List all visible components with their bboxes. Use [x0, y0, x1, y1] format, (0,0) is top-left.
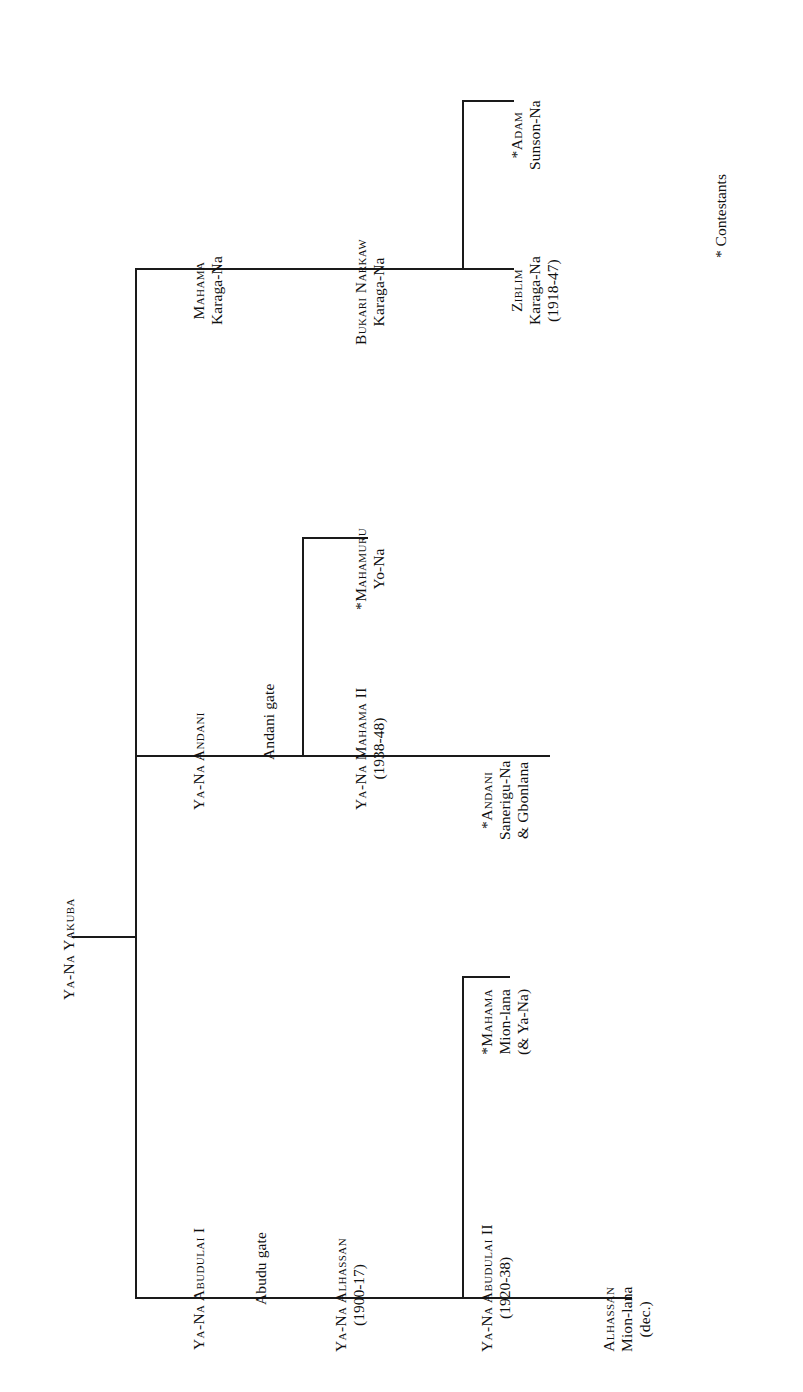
- legend-label: Contestants: [712, 174, 729, 246]
- legend-text: * Contestants: [712, 174, 730, 258]
- node-line3: (1918-47): [544, 256, 562, 325]
- node-line2: Sunson-Na: [526, 100, 544, 170]
- connector-bukari-children-spine: [462, 100, 464, 270]
- connector-root-stub: [72, 936, 136, 938]
- gate-label: Andani gate: [260, 684, 278, 760]
- node-label: Ziblim: [508, 256, 526, 325]
- node-dates: (1900-17): [350, 1238, 368, 1352]
- node-name: Andani: [478, 772, 495, 821]
- node-line2: Sanerigu-Na: [496, 761, 514, 840]
- node-label: Mahama: [190, 256, 208, 325]
- connector-main-spine: [135, 268, 137, 1298]
- legend-marker: *: [712, 250, 729, 258]
- contestant-star: *: [478, 1047, 495, 1055]
- node-line2: Karaga-Na: [208, 256, 226, 325]
- node-mahama-karaga-na: Mahama Karaga-Na: [190, 256, 226, 325]
- node-label: Ya-Na Abudulai I: [190, 1227, 208, 1350]
- connector-alhassan-children-spine: [462, 976, 464, 1299]
- node-name: Adam: [508, 112, 525, 150]
- node-andani-sanerigu-na: *Andani Sanerigu-Na & Gbonlana: [478, 761, 532, 840]
- gate-label: Abudu gate: [252, 1232, 270, 1305]
- node-label: *Adam: [508, 100, 526, 170]
- node-ya-na-abudulai-2: Ya-Na Abudulai II (1920-38): [478, 1224, 514, 1352]
- node-name: Mahamuru: [352, 528, 369, 602]
- node-label: *Mahamuru: [352, 528, 370, 610]
- node-line3: (& Ya-Na): [514, 989, 532, 1055]
- family-tree-figure: Ya-Na Yakuba Ya-Na Abudulai I Abudu gate…: [0, 0, 803, 1392]
- node-label: Ya-Na Yakuba: [60, 898, 78, 1000]
- connector-ziblim: [462, 268, 514, 270]
- node-dates: (1938-48): [370, 687, 388, 810]
- node-name: Mahama: [478, 989, 495, 1047]
- connector-mahamakaraga-bukari: [201, 268, 427, 270]
- connector-mahama2-children-spine: [302, 537, 304, 757]
- connector-mahama-mion: [462, 976, 510, 978]
- node-line2: Mion-lana: [618, 1287, 636, 1352]
- connector-andani-mahama2: [201, 755, 361, 757]
- contestant-star: *: [508, 150, 525, 158]
- node-label: *Andani: [478, 761, 496, 840]
- node-adam-sunson-na: *Adam Sunson-Na: [508, 100, 544, 170]
- connector-bukari-to-spine: [427, 268, 463, 270]
- node-ya-na-yakuba: Ya-Na Yakuba: [60, 898, 78, 1000]
- node-label: Alhassan: [600, 1287, 618, 1352]
- node-line2: Mion-lana: [496, 989, 514, 1055]
- connector-adam-sunson: [462, 100, 514, 102]
- node-dates: (1920-38): [496, 1224, 514, 1352]
- connector-abudulai1-alhassan: [201, 1297, 341, 1299]
- legend-contestants: * Contestants: [712, 174, 730, 258]
- label-andani-gate: Andani gate: [260, 684, 278, 760]
- node-line2: Yo-Na: [370, 528, 388, 610]
- node-line2: Karaga-Na: [526, 256, 544, 325]
- node-label: Ya-Na Andani: [190, 712, 208, 810]
- node-ziblim-karaga-na: Ziblim Karaga-Na (1918-47): [508, 256, 562, 325]
- node-label: Ya-Na Mahama II: [352, 687, 370, 810]
- contestant-star: *: [352, 602, 369, 610]
- connector-andani-sanerigu: [430, 755, 550, 757]
- label-abudu-gate: Abudu gate: [252, 1232, 270, 1305]
- contestant-star: *: [478, 821, 495, 829]
- node-label: Bukari Narkaw: [352, 239, 370, 345]
- node-ya-na-andani: Ya-Na Andani: [190, 712, 208, 810]
- node-line2: Karaga-Na: [370, 239, 388, 345]
- node-ya-na-alhassan: Ya-Na Alhassan (1900-17): [332, 1238, 368, 1352]
- node-label: *Mahama: [478, 989, 496, 1055]
- node-mahama-mion-lana: *Mahama Mion-lana (& Ya-Na): [478, 989, 532, 1055]
- node-line3: (dec.): [636, 1287, 654, 1352]
- node-bukari-narkaw-karaga-na: Bukari Narkaw Karaga-Na: [352, 239, 388, 345]
- node-mahamuru-yo-na: *Mahamuru Yo-Na: [352, 528, 388, 610]
- node-line3: & Gbonlana: [514, 761, 532, 840]
- node-ya-na-mahama-2: Ya-Na Mahama II (1938-48): [352, 687, 388, 810]
- node-label: Ya-Na Alhassan: [332, 1238, 350, 1352]
- node-label: Ya-Na Abudulai II: [478, 1224, 496, 1352]
- node-ya-na-abudulai-1: Ya-Na Abudulai I: [190, 1227, 208, 1350]
- node-alhassan-mion-lana: Alhassan Mion-lana (dec.): [600, 1287, 654, 1352]
